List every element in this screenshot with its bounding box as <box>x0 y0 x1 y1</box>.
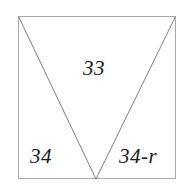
region-label-top: 33 <box>83 58 105 79</box>
region-label-left: 34 <box>30 146 52 167</box>
region-label-right: 34-r <box>119 146 157 167</box>
figure-canvas <box>0 0 190 193</box>
geometry-figure: 33 34 34-r <box>0 0 190 193</box>
